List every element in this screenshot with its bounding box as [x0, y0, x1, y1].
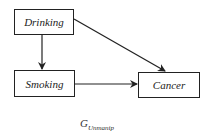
- edge-drinking-cancer: [74, 19, 165, 71]
- node-cancer-label: Cancer: [153, 79, 185, 91]
- causal-diagram: Drinking Smoking Cancer GUnmanip: [0, 0, 209, 140]
- node-drinking-label: Drinking: [24, 16, 64, 28]
- caption-subscript: Unmanip: [88, 124, 114, 132]
- node-cancer: Cancer: [138, 72, 200, 98]
- node-drinking: Drinking: [14, 9, 74, 35]
- graph-caption: GUnmanip: [80, 117, 114, 132]
- node-smoking-label: Smoking: [26, 78, 64, 90]
- node-smoking: Smoking: [14, 70, 75, 97]
- caption-main: G: [80, 117, 88, 129]
